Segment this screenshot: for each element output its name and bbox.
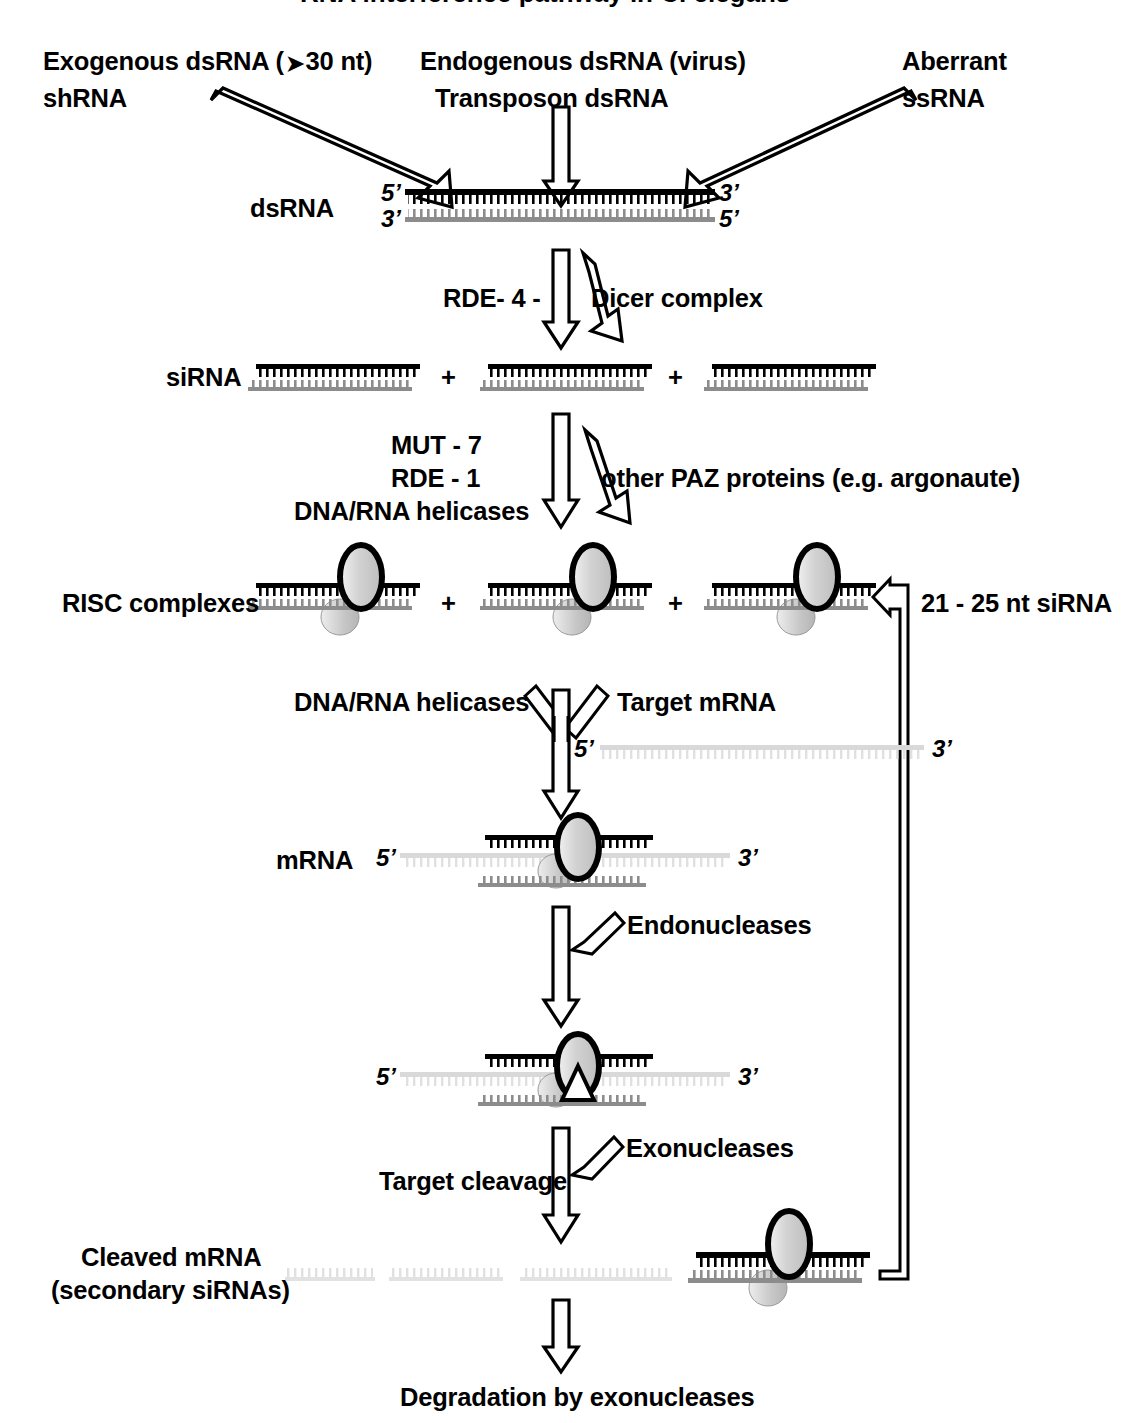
cleaved-mrna-risc-complex: [400, 1034, 730, 1107]
input-label-ssrna: ssRNA: [902, 83, 985, 113]
row-label-dsrna: dsRNA: [250, 193, 334, 223]
cleaved-complex-5prime: 5’: [376, 1063, 396, 1091]
rnai-pathway-diagram: RNA interference pathway in C. elegans: [0, 0, 1138, 1423]
label-target-cleavage: Target cleavage: [379, 1166, 567, 1196]
cleaved-mrna-fragments: [285, 1268, 672, 1281]
dsrna-3prime-left: 3’: [381, 205, 401, 233]
arrow-exogenous-dsrna: [211, 88, 452, 207]
feedback-loop-arrow: [873, 579, 908, 1279]
enzyme-label-dicer-complex: Dicer complex: [591, 283, 763, 313]
mrna-risc-complex: [400, 815, 730, 888]
dsrna-3prime-right: 3’: [719, 179, 739, 207]
enzyme-label-mut7: MUT - 7: [391, 430, 482, 460]
label-degradation-by-exonucleases: Degradation by exonucleases: [400, 1382, 755, 1412]
risc-complex-2: [480, 545, 652, 635]
row-label-cleaved-mrna-line1: Cleaved mRNA: [81, 1242, 261, 1272]
enzyme-label-rde1: RDE - 1: [391, 463, 480, 493]
enzyme-label-paz-proteins: other PAZ proteins (e.g. argonaute): [601, 463, 1020, 493]
target-mrna-3prime: 3’: [932, 735, 952, 763]
row-label-sirna: siRNA: [166, 362, 242, 392]
arrow-endogenous-dsrna: [544, 107, 578, 206]
input-label-shrna: shRNA: [43, 83, 127, 113]
arrow-endonucleases: [544, 907, 624, 1026]
target-mrna-strand: [600, 745, 924, 759]
dsrna-duplex: [405, 189, 715, 222]
enzyme-label-exonucleases: Exonucleases: [626, 1133, 794, 1163]
recycled-risc-complex: [688, 1211, 870, 1306]
enzyme-label-dna-rna-helicases-2: DNA/RNA helicases: [294, 687, 529, 717]
label-target-mrna: Target mRNA: [617, 687, 776, 717]
risc-complex-1: [248, 545, 420, 635]
sirna-duplex-1: [248, 364, 420, 391]
cleaved-complex-3prime: 3’: [738, 1063, 758, 1091]
risc-plus-1: +: [441, 588, 456, 618]
exogenous-prefix: Exogenous dsRNA (: [43, 47, 284, 75]
enzyme-label-rde4: RDE- 4 -: [443, 283, 541, 313]
sirna-plus-1: +: [441, 362, 456, 392]
risc-plus-2: +: [668, 588, 683, 618]
row-label-risc-complexes: RISC complexes: [62, 588, 259, 618]
input-label-aberrant: Aberrant: [902, 46, 1007, 76]
row-label-mrna: mRNA: [276, 845, 353, 875]
arrow-helicase-target-mrna: [525, 686, 608, 818]
input-label-exogenous-line1: Exogenous dsRNA (➤30 nt): [43, 46, 372, 77]
row-label-cleaved-mrna-line2: (secondary siRNAs): [51, 1275, 290, 1305]
target-mrna-5prime: 5’: [574, 735, 594, 763]
sirna-duplex-3: [704, 364, 876, 391]
enzyme-label-dna-rna-helicases-1: DNA/RNA helicases: [294, 496, 529, 526]
risc-complex-3: [704, 545, 876, 635]
sirna-plus-2: +: [668, 362, 683, 392]
dsrna-5prime-left: 5’: [381, 179, 401, 207]
feedback-label-sirna-length: 21 - 25 nt siRNA: [921, 588, 1112, 618]
diagram-graphics: [0, 0, 1138, 1423]
mrna-5prime: 5’: [376, 844, 396, 872]
enzyme-label-endonucleases: Endonucleases: [627, 910, 811, 940]
exogenous-suffix: 30 nt): [306, 47, 373, 75]
input-label-transposon: Transposon dsRNA: [435, 83, 668, 113]
dsrna-5prime-right: 5’: [719, 205, 739, 233]
greater-than-icon: ➤: [284, 51, 306, 76]
clipped-title-text: RNA interference pathway in C. elegans: [300, 0, 790, 7]
input-label-endogenous: Endogenous dsRNA (virus): [420, 46, 746, 76]
mrna-3prime: 3’: [738, 844, 758, 872]
arrow-degradation: [544, 1300, 578, 1372]
clipped-title-sliver: RNA interference pathway in C. elegans: [300, 0, 840, 7]
sirna-duplex-2: [480, 364, 652, 391]
